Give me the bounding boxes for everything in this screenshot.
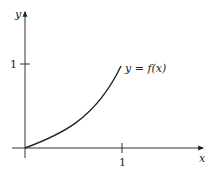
curve-label: y = f(x) [124,62,166,75]
y-tick-label: 1 [10,58,17,71]
y-axis-label: y [14,8,22,21]
x-axis-label: x [199,152,206,165]
curve-f [25,66,121,148]
x-tick-label: 1 [119,156,126,169]
function-plot: y x 1 1 y = f(x) [0,0,213,178]
